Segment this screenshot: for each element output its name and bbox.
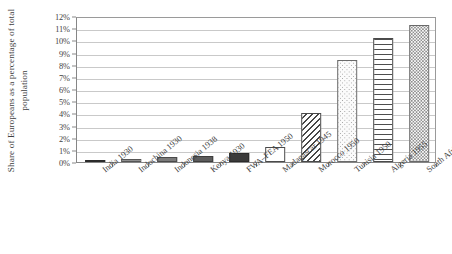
- x-axis-tick-label: Kenya 1930: [208, 166, 215, 174]
- x-axis-tick-label: Morocco 1950: [316, 166, 323, 174]
- x-axis-tick-label: Tunisia 1950: [352, 166, 359, 174]
- x-axis-tick-label: Madagascar 1945: [280, 166, 287, 174]
- y-axis-tick-label: 0%: [59, 159, 70, 168]
- x-axis-tick-label: Indonesia 1938: [172, 166, 179, 174]
- y-axis-tick-label: 11%: [55, 25, 70, 34]
- x-axis-tick-label: Algeria 1955: [388, 166, 395, 174]
- bar-series: [77, 18, 435, 162]
- y-axis-tick-label: 8%: [59, 61, 70, 70]
- y-axis-tick-label: 10%: [55, 37, 70, 46]
- y-axis-tick-label: 2%: [59, 134, 70, 143]
- y-axis-tick-label: 7%: [59, 73, 70, 82]
- x-axis-tick-label: FWA–FEA 1950: [244, 166, 251, 174]
- y-axis-tick-label: 6%: [59, 86, 70, 95]
- bar[interactable]: [85, 160, 105, 162]
- y-axis-tick-label: 12%: [55, 13, 70, 22]
- y-axis-tick-label: 4%: [59, 110, 70, 119]
- x-axis-tick-label: South Africa 2010: [424, 166, 431, 174]
- x-axis-tick-label: India 1930: [100, 166, 107, 174]
- bar-chart: Share of Europeans as a percentage of to…: [0, 0, 452, 254]
- y-axis-tick-label: 3%: [59, 122, 70, 131]
- y-axis-tick-label: 9%: [59, 49, 70, 58]
- y-axis-tick-label: 1%: [59, 146, 70, 155]
- x-axis-tick-label: Indochina 1930: [136, 166, 143, 174]
- bar-slot: [113, 18, 149, 162]
- y-axis-tick-label: 5%: [59, 98, 70, 107]
- bar-slot: [77, 18, 113, 162]
- y-axis-title: Share of Europeans as a percentage of to…: [2, 3, 34, 178]
- x-axis-tick-labels: India 1930Indochina 1930Indonesia 1938Ke…: [76, 166, 436, 254]
- y-axis-tick-labels: 0%1%2%3%4%5%6%7%8%9%10%11%12%: [42, 17, 76, 163]
